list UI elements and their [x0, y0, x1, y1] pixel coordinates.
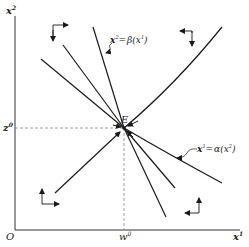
diagram-svg: x2 x1 O w0 z0 E x2=β(x1) x1=α(x2): [0, 0, 249, 247]
direction-arrows-top-right: [180, 31, 192, 46]
trajectory-line-3: [124, 128, 175, 188]
direction-arrows-top-left: [53, 25, 68, 41]
trajectory-line-2: [63, 45, 124, 128]
alpha-label-leader: [177, 149, 197, 158]
direction-arrows-bottom-right: [185, 198, 199, 213]
w0-label: w0: [119, 230, 132, 242]
arrow-into-e-from-left: [113, 125, 121, 127]
trajectories: [41, 27, 222, 217]
equilibrium-point: [122, 126, 126, 130]
alpha-curve-label: x1=α(x2): [196, 143, 236, 154]
lower-left-trajectory: [55, 132, 120, 193]
y-axis-label: x2: [5, 4, 16, 16]
alpha-curve: [124, 128, 222, 183]
label-leaders: [106, 43, 197, 158]
phase-diagram: x2 x1 O w0 z0 E x2=β(x1) x1=α(x2): [0, 0, 249, 247]
beta-curve-label: x2=β(x1): [109, 34, 148, 45]
labels: x2 x1 O w0 z0 E x2=β(x1) x1=α(x2): [2, 4, 243, 242]
z0-label: z0: [2, 121, 14, 133]
equilibrium-label: E: [120, 114, 129, 125]
trajectory-line-4: [124, 128, 166, 217]
trajectory-line-1: [41, 59, 124, 128]
x-axis-label: x1: [232, 230, 243, 242]
origin-label: O: [6, 231, 14, 242]
